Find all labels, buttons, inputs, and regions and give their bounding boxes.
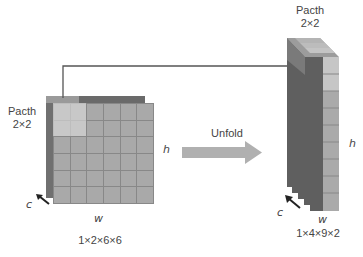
- right-patch-label-line2: 2×2: [288, 17, 332, 30]
- right-w-label: w: [318, 213, 327, 226]
- unfold-label: Unfold: [202, 127, 252, 140]
- unfold-arrow-icon: [180, 140, 265, 165]
- right-patch-label: Pacth 2×2: [288, 4, 332, 30]
- right-tensor: [280, 35, 345, 220]
- right-shape-label: 1×4×9×2: [288, 227, 348, 240]
- right-patch-label-line1: Pacth: [288, 4, 332, 17]
- right-c-arrow-icon: [283, 194, 303, 210]
- right-h-label: h: [349, 137, 356, 150]
